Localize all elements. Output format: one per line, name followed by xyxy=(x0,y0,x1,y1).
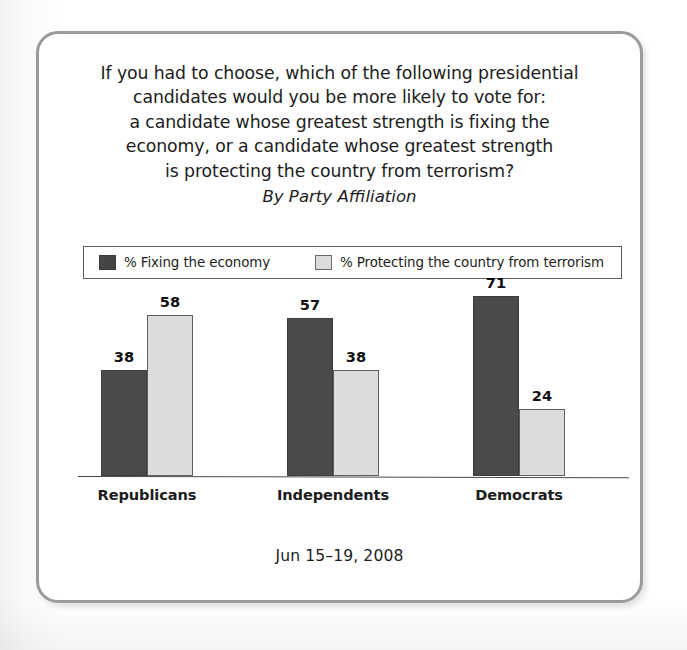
category-label-democrats: Democrats xyxy=(445,486,593,503)
bar-republicans-fixing-the-economy: 38 xyxy=(101,276,147,476)
bar-group-bars: 71 24 xyxy=(473,276,565,476)
bar-rect-dark xyxy=(287,318,333,476)
bar-value-label: 71 xyxy=(486,276,506,291)
bar-value-label: 57 xyxy=(300,298,320,313)
bar-group-democrats: 71 24 Democrats xyxy=(473,276,565,476)
bar-group-bars: 38 58 xyxy=(101,276,193,476)
bar-group-independents: 57 38 Independents xyxy=(287,276,379,476)
bar-value-label: 24 xyxy=(532,389,552,404)
bar-rect-light xyxy=(519,409,565,476)
chart-card: If you had to choose, which of the follo… xyxy=(36,31,643,603)
bar-rect-light xyxy=(333,370,379,476)
bar-republicans-protecting-the-country: 58 xyxy=(147,276,193,476)
x-axis-baseline xyxy=(78,476,629,478)
survey-date-footer: Jun 15–19, 2008 xyxy=(39,547,640,565)
category-label-independents: Independents xyxy=(259,486,407,503)
bar-democrats-protecting-the-country: 24 xyxy=(519,276,565,476)
bar-independents-fixing-the-economy: 57 xyxy=(287,276,333,476)
bar-chart-plot-area: 38 58 Republicans 57 38 xyxy=(39,34,640,600)
bar-rect-light xyxy=(147,315,193,476)
bar-group-bars: 57 38 xyxy=(287,276,379,476)
bar-rect-dark xyxy=(101,370,147,476)
category-label-republicans: Republicans xyxy=(73,486,221,503)
bar-independents-protecting-the-country: 38 xyxy=(333,276,379,476)
bar-rect-dark xyxy=(473,296,519,476)
bar-value-label: 38 xyxy=(346,350,366,365)
bar-value-label: 58 xyxy=(160,295,180,310)
bar-democrats-fixing-the-economy: 71 xyxy=(473,276,519,476)
bar-value-label: 38 xyxy=(114,350,134,365)
bar-group-republicans: 38 58 Republicans xyxy=(101,276,193,476)
